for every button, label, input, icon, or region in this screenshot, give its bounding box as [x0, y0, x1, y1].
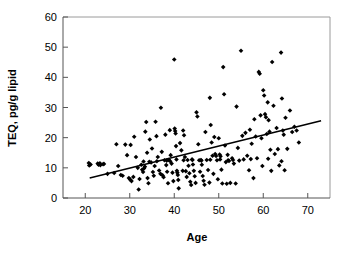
data-point [283, 115, 288, 120]
data-point [240, 134, 245, 139]
y-tick-label: 50 [45, 41, 57, 53]
data-point [224, 182, 229, 187]
data-point [269, 169, 274, 174]
data-point [258, 113, 263, 118]
data-point [261, 88, 266, 93]
data-point [201, 179, 206, 184]
data-point [285, 147, 290, 152]
data-point [203, 130, 208, 135]
y-tick-label: 0 [51, 192, 57, 204]
data-point [188, 179, 193, 184]
data-point [151, 170, 156, 175]
data-point [234, 104, 239, 109]
data-point [178, 141, 183, 146]
data-point [185, 158, 190, 163]
data-point [266, 118, 271, 123]
y-tick-label: 30 [45, 102, 57, 114]
data-point [187, 171, 192, 176]
data-point [249, 141, 254, 146]
x-tick-label: 70 [302, 204, 314, 216]
data-point [233, 181, 238, 186]
data-point [262, 93, 267, 98]
data-point [198, 169, 203, 174]
data-point [265, 100, 270, 105]
data-point [219, 167, 224, 172]
data-point [150, 146, 155, 151]
data-point [255, 156, 260, 161]
data-point [172, 57, 177, 62]
data-point [274, 126, 279, 131]
data-point [288, 108, 293, 113]
data-point [243, 131, 248, 136]
data-point [192, 169, 197, 174]
data-point [271, 103, 276, 108]
data-point [186, 163, 191, 168]
data-point [207, 180, 212, 185]
data-point [194, 110, 199, 115]
data-point [245, 153, 250, 158]
data-point [200, 174, 205, 179]
data-point [181, 128, 186, 133]
data-point [153, 119, 158, 124]
data-point [208, 96, 213, 101]
data-point [277, 163, 282, 168]
data-point [280, 96, 285, 101]
data-point [128, 143, 133, 148]
data-point [260, 164, 265, 169]
data-point [266, 156, 271, 161]
x-tick-label: 50 [213, 204, 225, 216]
data-point [248, 157, 253, 162]
data-point [252, 117, 257, 122]
data-point [163, 132, 168, 137]
data-point [134, 155, 139, 160]
data-point [279, 50, 284, 55]
data-point [195, 114, 200, 119]
data-point [116, 164, 121, 169]
data-point [200, 163, 205, 168]
data-point [237, 158, 242, 163]
data-point [168, 153, 173, 158]
plot-frame [63, 17, 330, 198]
data-point [220, 181, 225, 186]
data-point [251, 176, 256, 181]
data-point [196, 142, 201, 147]
data-point [216, 177, 221, 182]
data-point [136, 187, 141, 192]
data-point [193, 181, 198, 186]
x-tick-label: 30 [124, 204, 136, 216]
x-axis-title: Age [187, 231, 208, 243]
scatter-chart-figure: 0102030405060203040506070 Age TEQ, pg/g … [0, 0, 350, 254]
data-point [176, 186, 181, 191]
data-point [273, 152, 278, 157]
data-point [294, 128, 299, 133]
y-tick-label: 60 [45, 11, 57, 23]
x-tick-label: 20 [79, 204, 91, 216]
data-point [216, 136, 221, 141]
data-point [152, 164, 157, 169]
data-point [114, 142, 119, 147]
data-point [206, 168, 211, 173]
data-point [145, 176, 150, 181]
data-point [248, 128, 253, 133]
data-point [222, 92, 227, 97]
data-point [123, 142, 128, 147]
data-point [268, 147, 273, 152]
data-point [236, 146, 241, 151]
data-point [184, 175, 189, 180]
data-point [159, 106, 164, 111]
data-point [211, 172, 216, 177]
data-point [132, 134, 137, 139]
data-point [137, 177, 142, 182]
data-point [208, 157, 213, 162]
chart-canvas: 0102030405060203040506070 Age TEQ, pg/g … [0, 0, 350, 254]
data-point [270, 60, 275, 65]
x-tick-label: 60 [257, 204, 269, 216]
y-tick-label: 20 [45, 132, 57, 144]
data-point [189, 183, 194, 188]
data-point [182, 133, 187, 138]
data-point [232, 161, 237, 166]
data-point [247, 168, 252, 173]
data-point [191, 162, 196, 167]
data-point [297, 140, 302, 145]
data-point [221, 65, 226, 70]
